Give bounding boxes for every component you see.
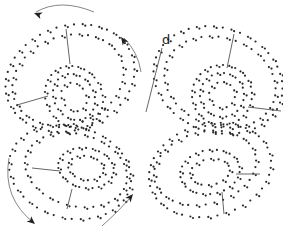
dot (216, 183, 218, 185)
dot (220, 124, 222, 126)
dot (195, 153, 197, 155)
dot (176, 212, 178, 214)
dot (153, 157, 155, 159)
dot (272, 114, 274, 116)
dot (89, 126, 91, 128)
dot (59, 158, 61, 160)
dot (258, 195, 260, 197)
dot (49, 197, 51, 199)
dot (231, 66, 233, 68)
dot (187, 204, 189, 206)
dot (162, 99, 164, 101)
dot (77, 66, 79, 68)
dot (154, 181, 156, 183)
dot (47, 92, 49, 94)
dot (157, 150, 159, 152)
dot (178, 139, 180, 141)
dot (87, 136, 89, 138)
dot (205, 203, 207, 205)
dot (252, 148, 254, 150)
dot (198, 113, 200, 115)
dot (30, 50, 32, 52)
dot (54, 83, 56, 85)
dot (254, 166, 256, 168)
dot (45, 85, 47, 87)
dot (189, 172, 191, 174)
dot (94, 103, 96, 105)
dot (247, 80, 249, 82)
dot (49, 110, 51, 112)
dot (250, 48, 252, 50)
dot (219, 193, 221, 195)
dot (207, 111, 209, 113)
dot (233, 196, 235, 198)
dot (220, 126, 222, 128)
dot (110, 182, 112, 184)
dot (276, 108, 278, 110)
dot (76, 155, 78, 157)
dot (249, 132, 251, 134)
dot (210, 186, 212, 188)
dot (101, 141, 103, 143)
dot (117, 199, 119, 201)
dot (236, 158, 238, 160)
dot (254, 149, 256, 151)
dot (85, 187, 87, 189)
dot (192, 174, 194, 176)
dot (86, 125, 88, 127)
lower-middle-arrow (102, 192, 136, 226)
dot (85, 147, 87, 149)
dot (112, 209, 114, 211)
dot (55, 125, 57, 127)
dot (126, 165, 128, 167)
dot (65, 125, 67, 127)
dot (52, 89, 54, 91)
dot (229, 170, 231, 172)
dot (37, 45, 39, 47)
dot (152, 166, 154, 168)
dot (64, 25, 66, 27)
dot (255, 160, 257, 162)
dot (190, 177, 192, 179)
dot (68, 205, 70, 207)
dot (267, 119, 269, 121)
dot (72, 184, 74, 186)
dot (217, 72, 219, 74)
dot (160, 192, 162, 194)
dot (50, 131, 52, 133)
top-left-arrow (33, 5, 94, 19)
dot (65, 178, 67, 180)
dot (226, 37, 228, 39)
dot (68, 162, 70, 164)
dot (239, 32, 241, 34)
dot (74, 175, 76, 177)
dot (124, 82, 126, 84)
dot (222, 64, 224, 66)
dot (194, 181, 196, 183)
dot (173, 34, 175, 36)
dot (57, 167, 59, 169)
dot (80, 218, 82, 220)
dot (104, 96, 106, 98)
dot (250, 81, 252, 83)
dot (159, 188, 161, 190)
dot (179, 171, 181, 173)
dot (69, 133, 71, 135)
dot (131, 83, 133, 85)
dot (130, 180, 132, 182)
dot (155, 85, 157, 87)
dot (281, 88, 283, 90)
dot (257, 53, 259, 55)
dot (66, 132, 68, 134)
upper-left-wing-spot-2 (60, 82, 90, 113)
dot (27, 175, 29, 177)
dot (85, 102, 87, 104)
dot (117, 152, 119, 154)
dot (223, 125, 225, 127)
dot (115, 34, 117, 36)
dot (118, 205, 120, 207)
dot (19, 50, 21, 52)
dot (214, 126, 216, 128)
dot (226, 83, 228, 85)
dot (218, 66, 220, 68)
